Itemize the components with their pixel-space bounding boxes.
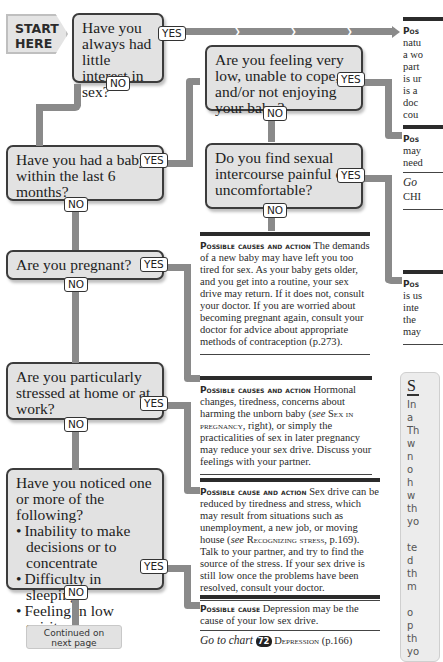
goto-label: Go to chart bbox=[200, 634, 253, 646]
connector-q2-yes-top bbox=[186, 78, 200, 85]
panel-heading: Possible cause bbox=[200, 604, 260, 614]
sidebar-line: Th bbox=[407, 424, 439, 437]
yes-tag: YES bbox=[140, 396, 168, 411]
cross-ref-link[interactable]: Recognizing stress bbox=[247, 534, 325, 545]
yes-tag: YES bbox=[337, 72, 365, 87]
panel-rule bbox=[200, 630, 380, 631]
start-label: START bbox=[15, 21, 66, 36]
sidebar-line: yo bbox=[407, 515, 439, 528]
no-tag: NO bbox=[263, 106, 287, 121]
connector-q6-no bbox=[72, 428, 79, 470]
panel-line: may bbox=[403, 326, 443, 338]
panel-line: is a bbox=[403, 85, 443, 97]
yes-tag: YES bbox=[158, 26, 186, 41]
chart-name: Depression bbox=[274, 635, 319, 646]
connector-q1-no-down bbox=[36, 104, 43, 146]
chart-number-badge: 72 bbox=[256, 636, 272, 647]
panel-rule bbox=[403, 344, 443, 345]
panel-bar bbox=[200, 595, 380, 599]
sidebar-line: w bbox=[407, 437, 439, 450]
continued-next-page-button[interactable]: Continued on next page bbox=[26, 625, 122, 649]
panel-rule bbox=[200, 474, 372, 475]
chart-name: CHI bbox=[403, 191, 443, 203]
sidebar-line: th bbox=[407, 567, 439, 580]
panel-heading: Possible causes and action bbox=[200, 385, 311, 395]
connector-q5-yes-down bbox=[184, 264, 191, 382]
panel-pregnancy: Possible causes and action Hormonal chan… bbox=[200, 376, 372, 475]
panel-heading: Pos bbox=[403, 25, 443, 37]
symptom-item: Inability to make decisions or to concen… bbox=[16, 523, 154, 571]
panel-line: the bbox=[403, 314, 443, 326]
chevron-icon: ❯ bbox=[346, 28, 353, 36]
panel-heading: Possible causes and action bbox=[200, 241, 311, 251]
connector-q4-yes-down bbox=[385, 175, 392, 283]
sidebar-line: o bbox=[407, 606, 439, 619]
connector-q6-yes-down bbox=[184, 402, 191, 494]
sidebar-line bbox=[407, 528, 439, 541]
panel-rule bbox=[403, 209, 443, 210]
chart-page: (p.166) bbox=[322, 635, 353, 646]
connector-q6-yes-in bbox=[184, 487, 200, 494]
no-tag: NO bbox=[263, 203, 287, 218]
sidebar-line: te bbox=[407, 541, 439, 554]
chevron-icon: ❯ bbox=[234, 28, 241, 36]
yes-tag: YES bbox=[140, 257, 168, 272]
sidebar-line: o bbox=[407, 463, 439, 476]
no-tag: NO bbox=[64, 197, 88, 212]
sidebar-line: d bbox=[407, 554, 439, 567]
connector-q5-no bbox=[72, 289, 79, 363]
panel-heading: Pos bbox=[403, 278, 443, 290]
panel-line: is us bbox=[403, 290, 443, 302]
yes-tag: YES bbox=[140, 559, 168, 574]
yes-tag: YES bbox=[337, 168, 365, 183]
connector-q2-yes-up bbox=[186, 78, 193, 167]
panel-new-baby: Possible causes and action The demands o… bbox=[200, 232, 370, 355]
sidebar-line: h bbox=[407, 476, 439, 489]
connector-q4-yes-in bbox=[385, 277, 402, 284]
sidebar-line: p bbox=[407, 619, 439, 632]
connector-q7-yes-in bbox=[184, 602, 200, 609]
panel-heading: Possible cause and action bbox=[200, 487, 307, 497]
sidebar-line: th bbox=[407, 632, 439, 645]
connector-q5-yes-in bbox=[184, 375, 200, 382]
panel-bar bbox=[403, 125, 443, 129]
panel-line: inte bbox=[403, 302, 443, 314]
question-text: Do you find sexual intercourse painful o… bbox=[215, 149, 348, 198]
goto-label[interactable]: Go bbox=[403, 176, 443, 188]
no-tag: NO bbox=[64, 585, 88, 600]
question-text: Are you particularly stressed at home or… bbox=[16, 368, 150, 417]
panel-rule bbox=[200, 354, 370, 355]
question-stressed: Are you particularly stressed at home or… bbox=[6, 362, 164, 420]
sidebar-line: a bbox=[407, 411, 439, 424]
sidebar-box: S In a Th w n o h w th yo te d th m o p … bbox=[400, 372, 440, 662]
connector-q7-no bbox=[72, 597, 79, 625]
panel-line: natu bbox=[403, 37, 443, 49]
question-text: Are you pregnant? bbox=[16, 256, 131, 273]
continued-line2: next page bbox=[27, 638, 121, 648]
symptom-list: Inability to make decisions or to concen… bbox=[16, 523, 154, 635]
panel-line: part bbox=[403, 61, 443, 73]
sidebar-title-rule bbox=[407, 394, 419, 396]
panel-line: a wo bbox=[403, 49, 443, 61]
panel-heading: Pos bbox=[403, 133, 443, 145]
connector-q3-yes-down bbox=[385, 79, 392, 139]
panel-line: cou bbox=[403, 109, 443, 121]
no-tag: NO bbox=[64, 277, 88, 292]
no-tag: NO bbox=[106, 76, 130, 91]
goto-chart-link[interactable]: Go to chart 72 Depression (p.166) bbox=[200, 634, 380, 647]
start-here-marker: START HERE bbox=[6, 14, 68, 54]
chevron-icon: ❯ bbox=[290, 28, 297, 36]
question-intro: Have you noticed one or more of the foll… bbox=[16, 475, 154, 523]
panel-body: The demands of a new baby may have left … bbox=[200, 240, 370, 347]
panel-right-low: Pos is us inte the may bbox=[403, 270, 443, 345]
connector-q2-no bbox=[72, 208, 79, 250]
panel-right-top: Pos natu a wo part is ur is a doc cou bbox=[403, 17, 443, 128]
no-tag: NO bbox=[64, 417, 88, 432]
question-text: Have you had a baby within the last 6 mo… bbox=[16, 151, 147, 200]
panel-line: may bbox=[403, 145, 443, 157]
panel-bar bbox=[403, 17, 443, 21]
panel-line: doc bbox=[403, 97, 443, 109]
continued-line1: Continued on bbox=[27, 628, 121, 638]
sidebar-line: yo bbox=[407, 645, 439, 658]
connector-q1-yes bbox=[180, 28, 395, 35]
